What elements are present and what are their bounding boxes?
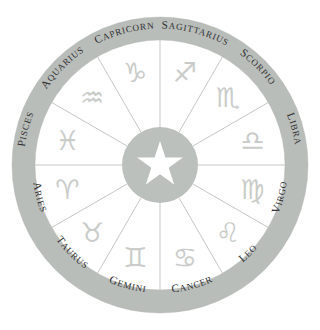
sign-glyph-aries-icon: ♈ [55, 174, 79, 205]
sign-glyph-gemini-icon: ♊ [123, 242, 147, 273]
center-hub [122, 127, 198, 203]
sign-glyph-pisces-icon: ♓ [55, 125, 79, 156]
sign-glyph-capricorn-icon: ♑ [123, 57, 147, 88]
sign-glyph-cancer-icon: ♋ [173, 242, 197, 273]
zodiac-wheel-graphic: SAGITTARIUSSCORPIOLIBRAVIRGOLEOCANCERGEM… [0, 0, 320, 330]
sign-glyph-libra-icon: ♎ [241, 125, 265, 156]
sign-glyph-virgo-icon: ♍ [241, 174, 265, 205]
sign-glyph-sagittarius-icon: ♐ [173, 57, 197, 88]
sign-glyph-taurus-icon: ♉ [80, 217, 104, 248]
sign-glyph-aquarius-icon: ♒ [80, 82, 104, 113]
sign-glyph-leo-icon: ♌ [216, 217, 240, 248]
sign-glyph-scorpio-icon: ♏ [216, 82, 240, 113]
zodiac-wheel-figure: SAGITTARIUSSCORPIOLIBRAVIRGOLEOCANCERGEM… [0, 0, 320, 330]
